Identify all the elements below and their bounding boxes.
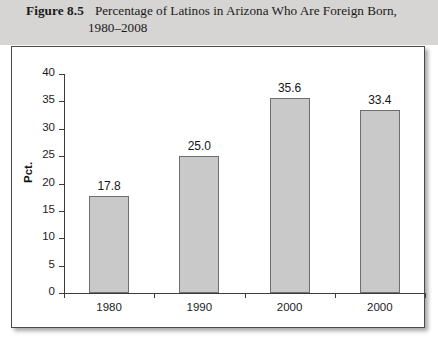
bar xyxy=(89,196,129,293)
chart-panel: Pct. 051015202530354017.8198025.0199035.… xyxy=(11,46,425,328)
y-tick-label: 20 xyxy=(42,176,55,188)
x-tick-mark xyxy=(425,293,426,298)
bar-value-label: 25.0 xyxy=(169,139,229,153)
y-tick-label: 15 xyxy=(42,203,55,215)
y-tick-mark xyxy=(59,101,64,102)
x-axis-line xyxy=(64,293,424,294)
x-tick-mark xyxy=(64,293,65,298)
figure-caption: Figure 8.5Percentage of Latinos in Arizo… xyxy=(26,2,422,36)
bar-value-label: 33.4 xyxy=(350,93,410,107)
y-tick-label: 5 xyxy=(49,258,55,270)
x-tick-mark xyxy=(245,293,246,298)
bar-value-label: 35.6 xyxy=(260,81,320,95)
y-tick-mark xyxy=(59,184,64,185)
x-tick-label: 1980 xyxy=(79,301,139,313)
y-tick-label: 30 xyxy=(42,121,55,133)
y-tick-mark xyxy=(59,238,64,239)
y-tick-mark xyxy=(59,211,64,212)
plot-area: 051015202530354017.8198025.0199035.62000… xyxy=(64,74,425,293)
figure-number: Figure 8.5 xyxy=(26,3,84,18)
bar xyxy=(179,156,219,293)
bar xyxy=(360,110,400,293)
y-tick-label: 40 xyxy=(42,66,55,78)
figure-title-line2: 1980–2008 xyxy=(88,19,422,36)
x-tick-label: 1990 xyxy=(169,301,229,313)
x-tick-label: 2000 xyxy=(260,301,320,313)
y-tick-mark xyxy=(59,156,64,157)
x-tick-label: 2000 xyxy=(350,301,410,313)
y-tick-mark xyxy=(59,266,64,267)
y-tick-mark xyxy=(59,129,64,130)
bar xyxy=(270,98,310,293)
y-tick-label: 25 xyxy=(42,148,55,160)
y-tick-label: 10 xyxy=(42,230,55,242)
y-tick-label: 0 xyxy=(49,285,55,297)
figure-caption-band: Figure 8.5Percentage of Latinos in Arizo… xyxy=(0,0,438,45)
bar-value-label: 17.8 xyxy=(79,179,139,193)
y-tick-label: 35 xyxy=(42,93,55,105)
figure-title-line1: Percentage of Latinos in Arizona Who Are… xyxy=(95,3,397,18)
x-tick-mark xyxy=(154,293,155,298)
y-tick-mark xyxy=(59,74,64,75)
y-axis-title: Pct. xyxy=(22,162,34,183)
x-tick-mark xyxy=(335,293,336,298)
